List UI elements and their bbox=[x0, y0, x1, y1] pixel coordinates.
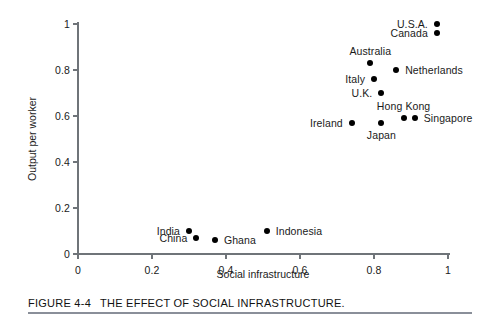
y-tick-label: 0 bbox=[40, 248, 70, 260]
y-tick-label: 1 bbox=[40, 18, 70, 30]
caption-text: FIGURE 4-4THE EFFECT OF SOCIAL INFRASTRU… bbox=[28, 297, 472, 312]
data-point-label: Japan bbox=[367, 129, 396, 141]
data-point bbox=[401, 115, 407, 121]
data-point bbox=[412, 115, 418, 121]
data-point-label: U.K. bbox=[352, 87, 373, 99]
data-point bbox=[349, 120, 355, 126]
caption-divider bbox=[28, 312, 472, 314]
data-point-label: China bbox=[159, 232, 187, 244]
data-point-label: Ghana bbox=[224, 234, 256, 246]
y-tick-label: 0.4 bbox=[40, 156, 70, 168]
y-tick-label: 0.2 bbox=[40, 202, 70, 214]
plot-axes-svg bbox=[0, 0, 494, 290]
data-point-label: Ireland bbox=[310, 117, 343, 129]
data-point-label: Australia bbox=[349, 45, 391, 57]
data-point-label: Singapore bbox=[424, 112, 473, 124]
data-point-label: Indonesia bbox=[276, 225, 322, 237]
data-point-label: Italy bbox=[345, 73, 365, 85]
data-point-label: Canada bbox=[391, 27, 428, 39]
data-point bbox=[264, 228, 270, 234]
y-axis-title: Output per worker bbox=[26, 97, 38, 181]
x-tick-label: 0.8 bbox=[367, 264, 382, 276]
caption-figure-number: FIGURE 4-4 bbox=[28, 297, 91, 309]
y-tick-label: 0.8 bbox=[40, 64, 70, 76]
x-axis-title: Social infrastructure bbox=[217, 268, 310, 280]
caption-title: THE EFFECT OF SOCIAL INFRASTRUCTURE. bbox=[100, 297, 345, 309]
x-tick-label: 0 bbox=[75, 264, 81, 276]
data-point bbox=[434, 21, 440, 27]
x-tick-label: 1 bbox=[445, 264, 451, 276]
data-point-label: Netherlands bbox=[405, 64, 463, 76]
figure-container: 00.20.40.60.8100.20.40.60.81 U.S.A.Canad… bbox=[0, 0, 494, 332]
figure-caption: FIGURE 4-4THE EFFECT OF SOCIAL INFRASTRU… bbox=[28, 297, 472, 314]
scatter-plot: 00.20.40.60.8100.20.40.60.81 U.S.A.Canad… bbox=[0, 0, 494, 290]
x-tick-label: 0.2 bbox=[145, 264, 160, 276]
data-point-label: Hong Kong bbox=[377, 100, 430, 112]
y-tick-label: 0.6 bbox=[40, 110, 70, 122]
